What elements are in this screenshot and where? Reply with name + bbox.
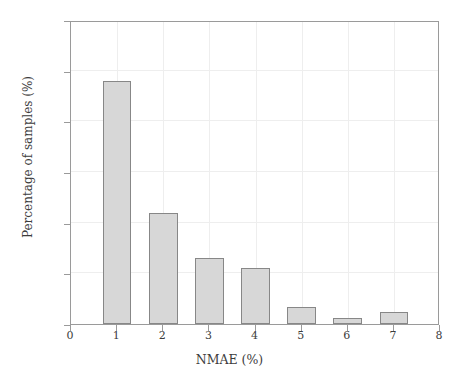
x-tick-label-4: 4 [235, 330, 275, 342]
x-tick-label-7: 7 [373, 330, 413, 342]
chart-figure: 0102030405060 Percentage of samples (%) … [0, 0, 459, 379]
x-tick-mark-8 [439, 325, 440, 331]
x-tick-mark-0 [70, 325, 71, 331]
x-tick-label-2: 2 [142, 330, 182, 342]
x-tick-label-0: 0 [50, 330, 90, 342]
x-tick-label-1: 1 [96, 330, 136, 342]
x-tick-label-5: 5 [281, 330, 321, 342]
x-axis: 012345678 [0, 0, 459, 379]
x-axis-title: NMAE (%) [0, 352, 459, 367]
x-tick-mark-7 [393, 325, 394, 331]
x-tick-mark-6 [347, 325, 348, 331]
x-tick-mark-1 [116, 325, 117, 331]
x-tick-mark-3 [208, 325, 209, 331]
x-tick-mark-2 [162, 325, 163, 331]
x-tick-label-6: 6 [327, 330, 367, 342]
x-tick-label-3: 3 [188, 330, 228, 342]
x-tick-mark-5 [301, 325, 302, 331]
x-tick-mark-4 [255, 325, 256, 331]
x-tick-label-8: 8 [419, 330, 459, 342]
